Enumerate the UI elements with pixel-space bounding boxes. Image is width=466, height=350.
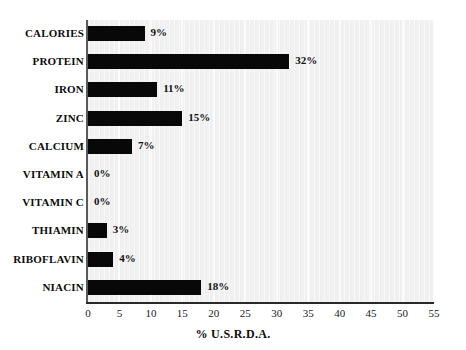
category-label: NIACIN	[0, 280, 84, 295]
bar	[88, 82, 157, 97]
bar-row: 32%	[88, 48, 434, 76]
category-label: RIBOFLAVIN	[0, 252, 84, 267]
bar-row: 15%	[88, 105, 434, 133]
bar-row: 4%	[88, 246, 434, 274]
bar-value-label: 0%	[94, 166, 111, 181]
bar-value-label: 18%	[207, 279, 229, 294]
bar	[88, 54, 289, 69]
x-tick-label: 30	[271, 307, 282, 319]
category-label: THIAMIN	[0, 223, 84, 238]
x-tick-label: 10	[145, 307, 156, 319]
x-tick-label: 55	[429, 307, 440, 319]
bar-row: 11%	[88, 76, 434, 104]
bar	[88, 280, 201, 295]
bar-value-label: 3%	[113, 222, 130, 237]
category-label: PROTEIN	[0, 54, 84, 69]
bar-row: 0%	[88, 161, 434, 189]
bar	[88, 26, 145, 41]
category-label: ZINC	[0, 111, 84, 126]
y-axis-line	[86, 20, 88, 304]
x-tick-label: 5	[117, 307, 123, 319]
plot-area: 9%32%11%15%7%0%0%3%4%18%	[88, 20, 434, 302]
category-label: VITAMIN A	[0, 167, 84, 182]
bar-value-label: 11%	[163, 81, 184, 96]
bar-row: 18%	[88, 274, 434, 302]
category-label: VITAMIN C	[0, 195, 84, 210]
category-label: IRON	[0, 82, 84, 97]
x-tick-label: 25	[240, 307, 251, 319]
bar	[88, 223, 107, 238]
x-axis-title: % U.S.R.D.A.	[0, 327, 466, 342]
x-axis-line	[86, 302, 434, 304]
bar	[88, 139, 132, 154]
bar-row: 0%	[88, 189, 434, 217]
bar-value-label: 0%	[94, 194, 111, 209]
x-tick-label: 45	[366, 307, 377, 319]
bar-value-label: 4%	[119, 251, 136, 266]
bar-value-label: 7%	[138, 138, 155, 153]
x-tick-label: 50	[397, 307, 408, 319]
bar	[88, 252, 113, 267]
bar-row: 3%	[88, 217, 434, 245]
category-label: CALCIUM	[0, 139, 84, 154]
chart-figure: 9%32%11%15%7%0%0%3%4%18% CALORIESPROTEIN…	[0, 0, 466, 350]
x-tick-label: 40	[334, 307, 345, 319]
category-label: CALORIES	[0, 26, 84, 41]
x-tick-label: 35	[303, 307, 314, 319]
category-axis-labels: CALORIESPROTEINIRONZINCCALCIUMVITAMIN AV…	[0, 20, 84, 302]
bar-value-label: 15%	[188, 110, 210, 125]
bar-row: 7%	[88, 133, 434, 161]
bar-value-label: 32%	[295, 53, 317, 68]
x-tick-label: 15	[177, 307, 188, 319]
bar-value-label: 9%	[151, 25, 168, 40]
bar	[88, 111, 182, 126]
bar-row: 9%	[88, 20, 434, 48]
x-tick-label: 20	[208, 307, 219, 319]
x-tick-label: 0	[85, 307, 91, 319]
